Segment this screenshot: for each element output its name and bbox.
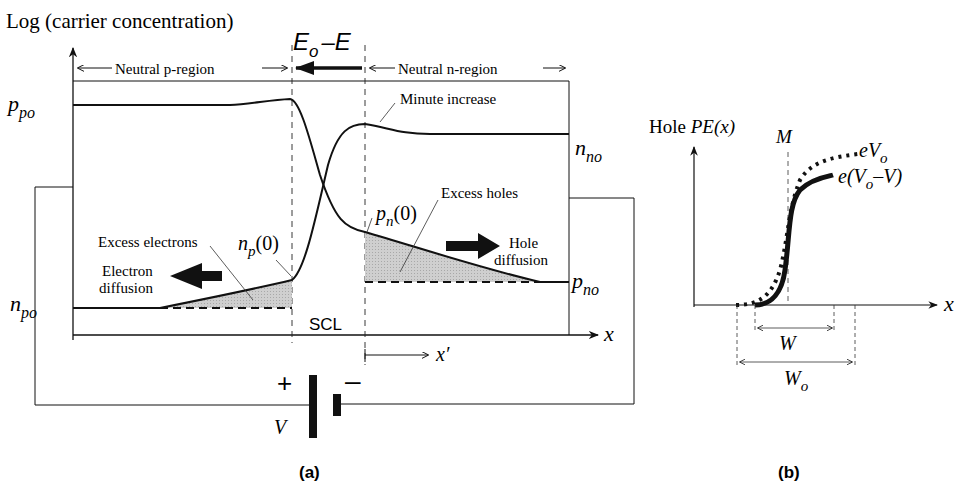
neutral-p-label: Neutral p-region: [115, 61, 215, 77]
ev0-label: eVo: [859, 139, 888, 166]
battery-short-plate: [333, 394, 341, 416]
battery-minus: –: [345, 365, 361, 396]
panel-a: Log (carrier concentration) Eo–E Neutral…: [6, 9, 634, 482]
electron-diffusion-label-1: Electron: [102, 263, 153, 279]
battery-label: V: [274, 416, 289, 438]
hole-diffusion-arrow: [446, 233, 500, 259]
pn0-leader: [367, 218, 372, 232]
y-axis-label-b: Hole PE(x): [649, 116, 735, 138]
battery-long-plate: [309, 375, 317, 438]
battery-plus: +: [277, 368, 292, 398]
minute-increase-leader: [380, 103, 395, 122]
pno-label: pno: [570, 268, 599, 298]
caption-a: (a): [299, 463, 320, 482]
x-prime-label: x′: [435, 343, 450, 365]
evv-label: e(Vo–V): [838, 165, 902, 192]
minute-increase-label: Minute increase: [400, 91, 497, 107]
y-axis-label: Log (carrier concentration): [6, 9, 233, 33]
hole-diffusion-label-2: diffusion: [494, 252, 548, 268]
x-axis-label-a: x: [603, 321, 614, 346]
w-label: W: [779, 332, 798, 354]
w0-label: Wo: [784, 367, 809, 394]
field-arrowhead: [295, 61, 314, 75]
circuit-wire-right: [341, 198, 634, 404]
hole-diffusion-label-1: Hole: [509, 235, 539, 251]
pn-junction-figure: Log (carrier concentration) Eo–E Neutral…: [0, 0, 973, 502]
pn0-label: pn(0): [374, 202, 417, 229]
electron-diffusion-arrow: [170, 263, 222, 289]
electron-diffusion-label-2: diffusion: [99, 280, 153, 296]
x-axis-label-b: x: [943, 291, 954, 316]
caption-b: (b): [778, 463, 800, 482]
excess-holes-label: Excess holes: [441, 185, 518, 201]
neutral-n-label: Neutral n-region: [398, 61, 498, 77]
np0-label: np(0): [238, 232, 279, 259]
field-label: Eo–E: [293, 28, 352, 61]
m-label: M: [775, 126, 793, 147]
nno-label: nno: [575, 135, 602, 165]
scl-label: SCL: [309, 315, 342, 334]
panel-b: Hole PE(x) M eVo e(Vo–V) x W Wo (b): [649, 116, 954, 482]
excess-electrons-label: Excess electrons: [98, 234, 198, 250]
ppo-label: ppo: [6, 91, 35, 122]
npo-label: npo: [10, 291, 37, 322]
np0-leader: [276, 260, 291, 276]
